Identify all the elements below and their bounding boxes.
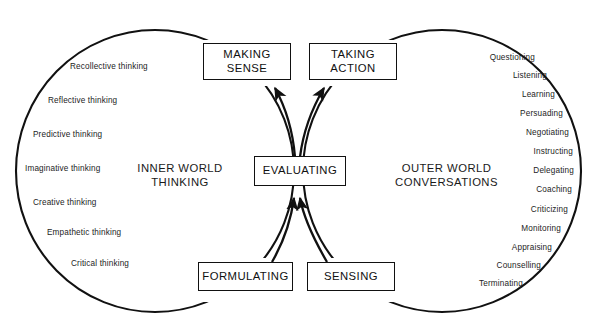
arc-label-left: Empathetic thinking: [47, 228, 121, 237]
zone-label-inner-world-line1: INNER WORLD: [120, 161, 240, 175]
box-formulating-label: FORMULATING: [202, 270, 288, 284]
arrow-formulating-to-evaluating: [272, 198, 294, 262]
arc-label-left: Reflective thinking: [48, 96, 117, 105]
arc-label-right: Coaching: [536, 185, 572, 194]
box-making-sense[interactable]: MAKING SENSE: [203, 43, 291, 80]
box-sensing[interactable]: SENSING: [307, 262, 395, 291]
arc-label-right: Counselling: [497, 261, 541, 270]
arc-label-right: Learning: [522, 90, 555, 99]
arc-label-left: Imaginative thinking: [25, 164, 100, 173]
arc-label-right: Terminating: [479, 279, 523, 288]
arc-label-right: Appraising: [512, 243, 552, 252]
arc-label-right: Criticizing: [531, 205, 568, 214]
box-making-sense-line2: SENSE: [223, 62, 270, 76]
arc-label-right: Listening: [513, 71, 547, 80]
zone-label-inner-world: INNER WORLD THINKING: [120, 161, 240, 189]
arc-label-left: Creative thinking: [33, 198, 97, 207]
box-taking-action-line2: ACTION: [330, 62, 375, 76]
box-evaluating[interactable]: EVALUATING: [254, 156, 346, 186]
box-making-sense-line1: MAKING: [223, 48, 270, 62]
arrow-sensing-to-evaluating: [300, 198, 327, 262]
arc-label-right: Persuading: [520, 109, 563, 118]
zone-label-outer-world-line1: OUTER WORLD: [384, 161, 509, 175]
box-formulating[interactable]: FORMULATING: [198, 262, 293, 291]
zone-label-outer-world-line2: CONVERSATIONS: [384, 175, 509, 189]
arc-label-right: Questioning: [490, 53, 535, 62]
zone-label-outer-world: OUTER WORLD CONVERSATIONS: [384, 161, 509, 189]
box-taking-action[interactable]: TAKING ACTION: [309, 43, 397, 80]
zone-label-inner-world-line2: THINKING: [120, 175, 240, 189]
arc-label-right: Negotiating: [526, 128, 569, 137]
arc-label-right: Delegating: [533, 166, 574, 175]
arc-label-left: Predictive thinking: [33, 130, 102, 139]
arc-label-left: Recollective thinking: [70, 62, 148, 71]
box-evaluating-label: EVALUATING: [263, 164, 337, 178]
arc-label-left: Critical thinking: [71, 259, 129, 268]
box-sensing-label: SENSING: [324, 270, 378, 284]
arc-label-right: Instructing: [534, 147, 573, 156]
diagram-canvas: MAKING SENSE TAKING ACTION EVALUATING FO…: [0, 0, 599, 330]
arc-label-right: Monitoring: [521, 224, 561, 233]
box-taking-action-line1: TAKING: [330, 48, 375, 62]
